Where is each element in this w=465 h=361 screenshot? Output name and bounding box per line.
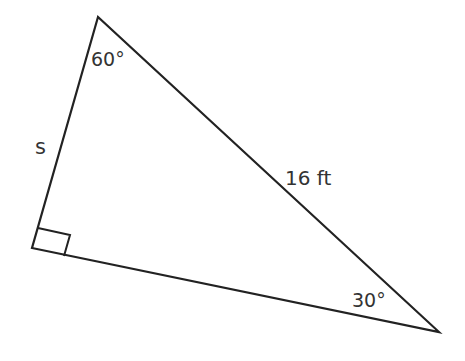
triangle-diagram: 60° s 16 ft 30° [0, 0, 465, 361]
hypotenuse-label: 16 ft [285, 166, 331, 190]
bottom-angle-label: 30° [352, 289, 386, 311]
left-side-label: s [35, 135, 46, 159]
top-angle-label: 60° [91, 48, 125, 70]
